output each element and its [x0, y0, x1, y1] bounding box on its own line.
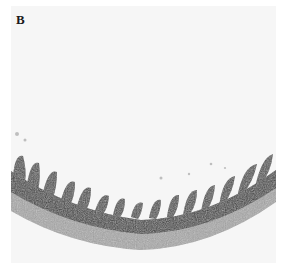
micrograph-image: [11, 6, 276, 263]
panel-label: B: [16, 12, 25, 28]
luminal-debris: [15, 132, 226, 180]
